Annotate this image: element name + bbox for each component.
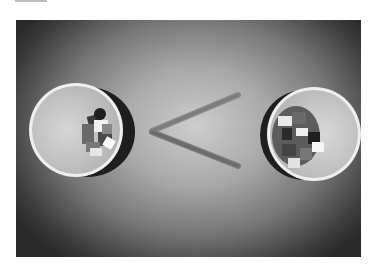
right-cup [260,87,361,181]
left-cup [29,83,135,177]
less-than-sticks [152,95,238,166]
top-rule-divider [15,0,47,2]
photo-cups-comparison [16,20,361,257]
